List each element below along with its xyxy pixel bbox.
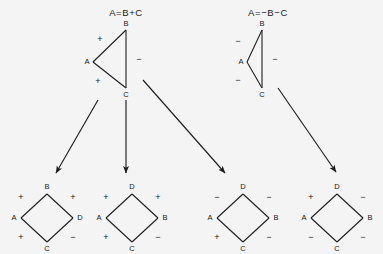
edge-sign-ab: + [97,34,102,44]
edge-sign-cb: − [360,232,365,242]
edge-sign-ac: − [235,75,240,85]
square-4: +−−−DABC [301,182,372,253]
edge-a-b [247,30,262,62]
arrow-1 [56,100,98,173]
edge-a-c [247,62,262,88]
node-label-c: C [44,244,50,253]
edge-sign-cb: − [155,232,160,242]
node-label-b: B [44,182,49,191]
node-label-c: C [123,90,129,99]
square-2: +++−DABC [96,182,167,253]
edge-sign-ac: − [308,232,313,242]
edge-sign-db: − [360,192,365,202]
derivation-arrows-layer [56,80,336,173]
edge-sign-bc: − [272,54,277,64]
edge-sign-ab: + [18,192,23,202]
node-label-a: A [11,213,16,222]
edge-sign-ac: + [95,76,100,86]
edge-c-b [337,218,363,242]
edge-d-b [337,194,363,218]
edge-a-d [311,194,337,218]
node-label-c: C [334,244,340,253]
node-label-b: B [162,213,167,222]
triangle-left: +−+BACA=B+C [84,7,142,99]
edge-sign-ad: + [308,192,313,202]
edge-c-b [243,218,269,242]
arrow-3 [143,80,225,173]
node-label-b: B [259,19,264,28]
edge-sign-db: − [266,192,271,202]
equation-label: A=B+C [109,7,143,18]
triangle-right: −−−BACA=−B−C [235,7,288,99]
node-label-d: D [240,182,246,191]
edge-sign-ad: − [214,192,219,202]
node-label-d: D [77,213,83,222]
edge-c-b [132,218,158,242]
edge-a-c [217,218,243,242]
edge-a-d [217,194,243,218]
signed-graph-diagram: +−+BACA=B+C−−−BACA=−B−C +++−BADC+++−DABC… [0,0,383,254]
edge-sign-cd: − [70,232,75,242]
node-label-a: A [96,213,101,222]
edge-b-d [47,194,73,218]
arrow-4 [278,88,336,172]
edge-sign-ac: + [214,232,219,242]
edge-a-c [311,218,337,242]
edge-a-d [106,194,132,218]
node-label-b: B [123,19,128,28]
node-label-a: A [301,213,306,222]
square-3: −−+−DABC [207,182,278,253]
square-1: +++−BADC [11,182,83,253]
edge-sign-ac: + [103,232,108,242]
node-label-c: C [129,244,135,253]
edge-sign-cb: − [266,232,271,242]
edge-sign-ac: + [18,232,23,242]
node-label-d: D [334,182,340,191]
top-graphs-layer: +−+BACA=B+C−−−BACA=−B−C [84,7,287,99]
edge-sign-ad: + [103,192,108,202]
edge-d-b [132,194,158,218]
edge-a-b [21,194,47,218]
edge-a-c [21,218,47,242]
node-label-d: D [129,182,135,191]
edge-sign-bd: + [70,192,75,202]
bottom-graphs-layer: +++−BADC+++−DABC−−+−DABC+−−−DABC [11,182,372,253]
node-label-c: C [259,90,265,99]
edge-d-b [243,194,269,218]
node-label-b: B [367,213,372,222]
edge-a-c [106,218,132,242]
edge-sign-bc: − [136,54,141,64]
equation-label: A=−B−C [248,7,288,18]
node-label-a: A [207,213,212,222]
node-label-c: C [240,244,246,253]
node-label-b: B [273,213,278,222]
node-label-a: A [84,57,89,66]
edge-c-d [47,218,73,242]
edge-sign-db: + [155,192,160,202]
edge-sign-ab: − [235,36,240,46]
node-label-a: A [238,57,243,66]
diagram-canvas: +−+BACA=B+C−−−BACA=−B−C +++−BADC+++−DABC… [0,0,383,254]
